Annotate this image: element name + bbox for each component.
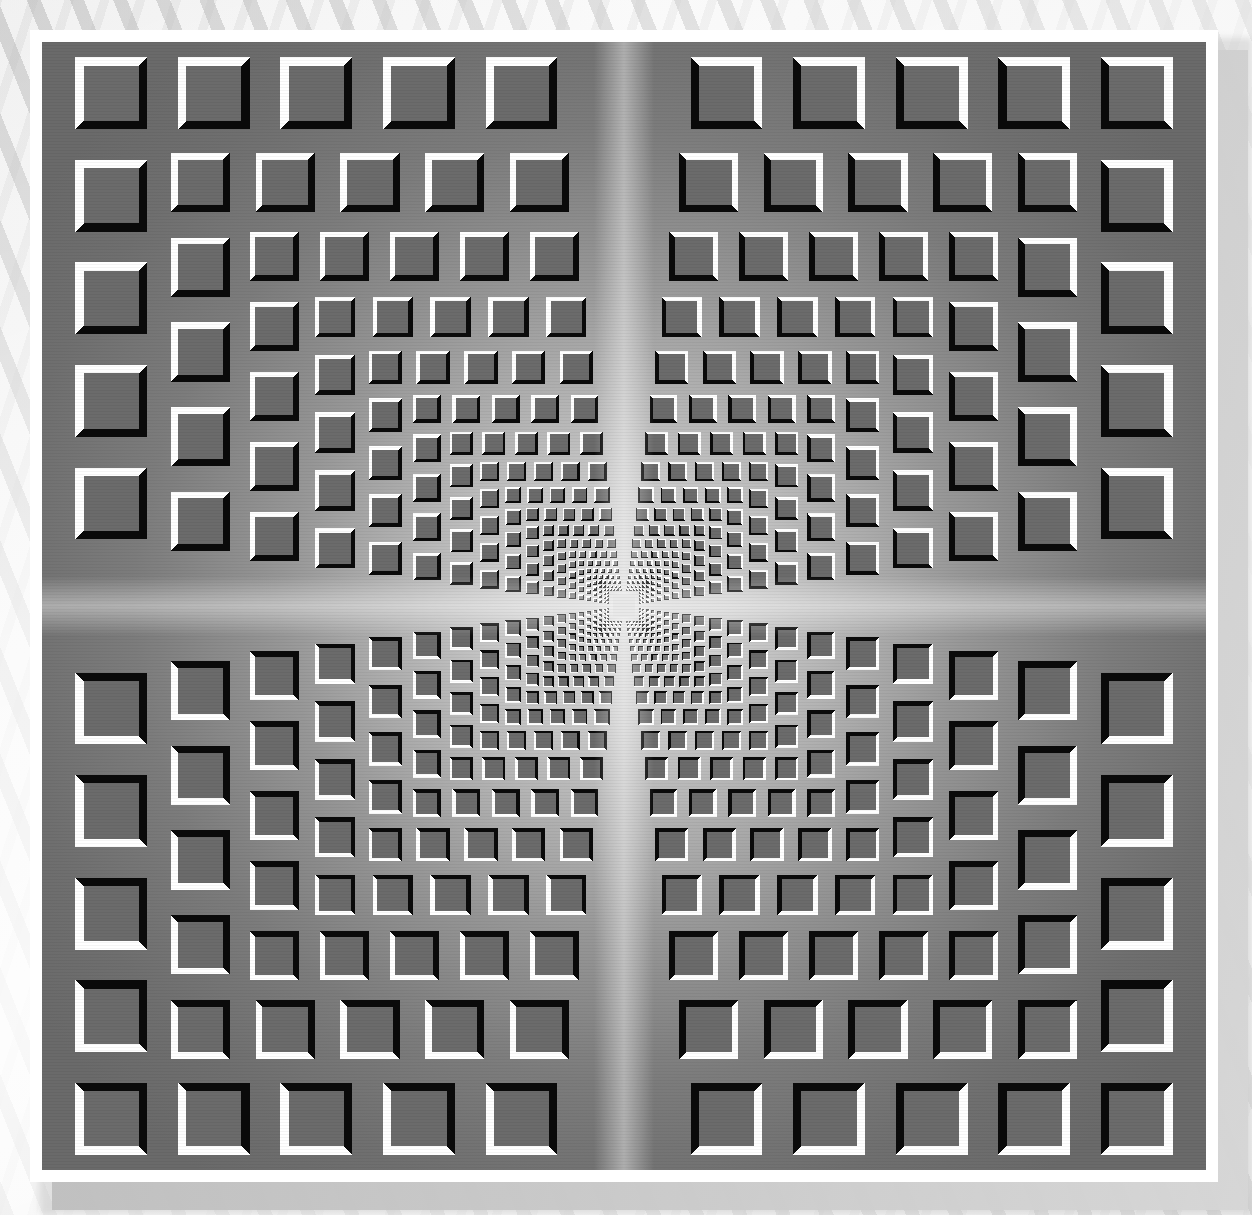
- illusion-page: r u: [0, 0, 1252, 1215]
- nested-squares-illusion-svg: [42, 42, 1206, 1170]
- op-art-plate: [42, 42, 1206, 1170]
- scan-texture-overlay: [42, 42, 1206, 1170]
- clipped-headline-text: r u: [0, 0, 1252, 10]
